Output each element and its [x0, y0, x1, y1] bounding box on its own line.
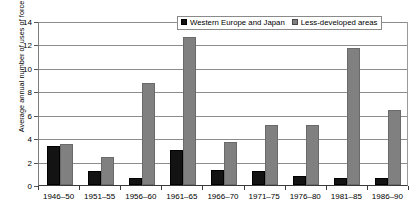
- x-tick-mark: [38, 186, 39, 190]
- bar-less-developed-areas: [306, 125, 319, 185]
- legend-item-less-developed-areas: Less-developed areas: [292, 19, 378, 27]
- x-tick-label: 1976–80: [290, 192, 321, 201]
- y-tick-label: 2: [28, 158, 32, 167]
- y-axis-ticks: 02468101214: [0, 22, 38, 186]
- x-tick-label: 1966–70: [207, 192, 238, 201]
- x-tick-mark: [161, 186, 162, 190]
- bar-western-europe-and-japan: [47, 146, 60, 185]
- y-tick-label: 12: [23, 41, 32, 50]
- bar-chart: Average annual number of uses of force 0…: [0, 0, 412, 221]
- x-axis-labels: 1946–501951–551956–601961–651966–701971–…: [38, 192, 408, 214]
- bar-western-europe-and-japan: [293, 176, 306, 185]
- x-tick-label: 1981–85: [331, 192, 362, 201]
- x-tick-mark: [326, 186, 327, 190]
- bar-less-developed-areas: [101, 157, 114, 185]
- bar-western-europe-and-japan: [129, 178, 142, 185]
- bar-group: [286, 22, 327, 185]
- bar-western-europe-and-japan: [170, 150, 183, 185]
- legend-label: Western Europe and Japan: [190, 19, 285, 27]
- x-tick-mark: [202, 186, 203, 190]
- bar-western-europe-and-japan: [252, 171, 265, 185]
- x-tick-mark: [285, 186, 286, 190]
- x-tick-label: 1986–90: [372, 192, 403, 201]
- x-tick-mark: [367, 186, 368, 190]
- bar-group: [245, 22, 286, 185]
- bar-group: [162, 22, 203, 185]
- chart-legend: Western Europe and Japan Less-developed …: [177, 16, 382, 30]
- x-tick-label: 1946–50: [43, 192, 74, 201]
- bar-western-europe-and-japan: [375, 178, 388, 185]
- y-tick-label: 0: [28, 182, 32, 191]
- legend-item-western-europe-and-japan: Western Europe and Japan: [181, 19, 285, 27]
- bar-western-europe-and-japan: [211, 170, 224, 185]
- bar-group: [203, 22, 244, 185]
- gray-square-icon: [292, 19, 298, 25]
- bar-group: [80, 22, 121, 185]
- bar-less-developed-areas: [388, 110, 401, 185]
- bar-group: [368, 22, 409, 185]
- legend-label: Less-developed areas: [301, 19, 378, 27]
- bar-group: [39, 22, 80, 185]
- x-tick-label: 1971–75: [249, 192, 280, 201]
- bar-less-developed-areas: [265, 125, 278, 185]
- bar-western-europe-and-japan: [88, 171, 101, 185]
- bar-less-developed-areas: [347, 48, 360, 185]
- bar-group: [121, 22, 162, 185]
- plot-area: [38, 22, 408, 186]
- x-tick-mark: [408, 186, 409, 190]
- x-tick-label: 1961–65: [166, 192, 197, 201]
- black-square-icon: [181, 19, 187, 25]
- bar-less-developed-areas: [60, 144, 73, 185]
- y-tick-label: 6: [28, 111, 32, 120]
- bar-less-developed-areas: [142, 83, 155, 185]
- y-tick-label: 8: [28, 88, 32, 97]
- x-tick-label: 1951–55: [84, 192, 115, 201]
- y-tick-label: 4: [28, 135, 32, 144]
- y-tick-label: 14: [23, 18, 32, 27]
- x-tick-label: 1956–60: [125, 192, 156, 201]
- x-tick-mark: [79, 186, 80, 190]
- y-tick-label: 10: [23, 64, 32, 73]
- bar-group: [327, 22, 368, 185]
- bar-western-europe-and-japan: [334, 178, 347, 185]
- bars-layer: [39, 22, 407, 185]
- x-axis-tickmarks: [38, 186, 408, 191]
- bar-less-developed-areas: [224, 142, 237, 185]
- x-tick-mark: [244, 186, 245, 190]
- bar-less-developed-areas: [183, 37, 196, 185]
- x-tick-mark: [120, 186, 121, 190]
